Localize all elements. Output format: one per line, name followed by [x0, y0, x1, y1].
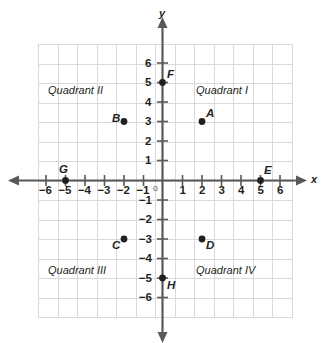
- y-tick-label--3: −3: [139, 234, 152, 246]
- y-axis-arrow-down: [158, 332, 168, 343]
- x-tick-label--4: −4: [78, 185, 91, 197]
- y-tick-label-5: 5: [145, 77, 151, 89]
- point-label-C: C: [112, 240, 120, 252]
- point-label-A: A: [206, 108, 214, 120]
- point-label-G: G: [59, 164, 68, 176]
- y-tick-label--2: −2: [139, 214, 152, 226]
- point-label-H: H: [167, 280, 175, 292]
- quadrant-1-label: Quadrant I: [196, 85, 248, 96]
- point-G-dot: [62, 177, 69, 184]
- y-tick-label--6: −6: [139, 292, 152, 304]
- y-axis-name: y: [159, 8, 165, 19]
- x-axis-name: x: [311, 174, 317, 185]
- y-tick-label--1: −1: [139, 195, 152, 207]
- x-tick-label-4: 4: [238, 185, 244, 197]
- point-B-dot: [121, 118, 128, 125]
- point-label-F: F: [167, 69, 174, 81]
- point-label-E: E: [264, 165, 272, 177]
- point-label-B: B: [112, 113, 120, 125]
- quadrant-3-label: Quadrant III: [48, 265, 106, 276]
- x-tick-label-1: 1: [180, 185, 186, 197]
- x-axis-arrow-left: [8, 176, 19, 186]
- y-tick-label--5: −5: [139, 273, 152, 285]
- point-H-dot: [159, 275, 166, 282]
- point-label-D: D: [206, 240, 214, 252]
- x-tick-label-5: 5: [258, 185, 264, 197]
- origin-label: o: [153, 184, 158, 193]
- x-tick-label--3: −3: [98, 185, 111, 197]
- x-tick-label--6: −6: [39, 185, 52, 197]
- y-tick-label-4: 4: [145, 97, 151, 109]
- y-tick-label-2: 2: [145, 136, 151, 148]
- y-tick-label--4: −4: [139, 253, 152, 265]
- point-E-dot: [257, 177, 264, 184]
- x-tick-label-2: 2: [199, 185, 205, 197]
- point-D-dot: [199, 236, 206, 243]
- coordinate-plane-svg: [0, 0, 327, 343]
- x-tick-label-3: 3: [219, 185, 225, 197]
- point-A-dot: [199, 118, 206, 125]
- coordinate-plane-figure: −6 −5 −4 −3 −2 −1 1 2 3 4 5 6 6 5 4 3 2 …: [0, 0, 327, 343]
- point-C-dot: [121, 236, 128, 243]
- x-tick-label--5: −5: [59, 185, 72, 197]
- y-tick-label-6: 6: [145, 58, 151, 70]
- quadrant-2-label: Quadrant II: [48, 85, 103, 96]
- quadrant-4-label: Quadrant IV: [196, 265, 255, 276]
- x-tick-label-6: 6: [277, 185, 283, 197]
- point-F-dot: [159, 79, 166, 86]
- y-tick-label-3: 3: [145, 116, 151, 128]
- y-tick-label-1: 1: [145, 155, 151, 167]
- x-axis-arrow-right: [296, 176, 307, 186]
- x-tick-label--2: −2: [117, 185, 130, 197]
